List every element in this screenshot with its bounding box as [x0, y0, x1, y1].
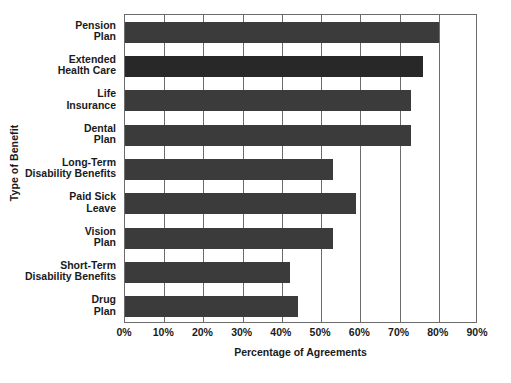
x-axis-tick-labels: 0%10%20%30%40%50%60%70%80%90% — [124, 326, 477, 342]
category-label-line2: Plan — [24, 31, 116, 43]
bar — [125, 90, 411, 111]
category-label-line2: Plan — [24, 134, 116, 146]
category-label: ExtendedHealth Care — [24, 54, 116, 77]
category-label-line2: Disability Benefits — [24, 271, 116, 283]
category-label: DrugPlan — [24, 294, 116, 317]
x-axis-tick-label: 10% — [153, 326, 174, 338]
category-label: LifeInsurance — [24, 88, 116, 111]
plot-area — [124, 14, 477, 323]
gridline — [439, 15, 440, 322]
bar — [125, 56, 423, 77]
x-axis-tick-label: 50% — [310, 326, 331, 338]
bar — [125, 159, 333, 180]
category-label-line1: Dental — [84, 122, 116, 134]
category-label: Paid SickLeave — [24, 191, 116, 214]
x-axis-tick-label: 90% — [466, 326, 487, 338]
category-label-line1: Long-Term — [62, 156, 116, 168]
bar — [125, 262, 290, 283]
category-label-line2: Disability Benefits — [24, 168, 116, 180]
category-label-line1: Life — [97, 87, 116, 99]
x-axis-tick-label: 80% — [427, 326, 448, 338]
category-axis-labels: PensionPlanExtendedHealth CareLifeInsura… — [28, 14, 120, 323]
category-label-line1: Short-Term — [60, 259, 116, 271]
x-axis-tick-label: 40% — [270, 326, 291, 338]
bar — [125, 296, 298, 317]
x-axis-tick-label: 70% — [388, 326, 409, 338]
category-label-line1: Extended — [69, 53, 116, 65]
category-label-line2: Plan — [24, 306, 116, 318]
bar — [125, 22, 439, 43]
category-label-line1: Pension — [75, 19, 116, 31]
category-label: Long-TermDisability Benefits — [24, 157, 116, 180]
x-axis-title: Percentage of Agreements — [124, 346, 477, 358]
x-axis-tick-label: 0% — [116, 326, 131, 338]
category-label-line1: Paid Sick — [69, 190, 116, 202]
bar-chart: Type of Benefit PensionPlanExtendedHealt… — [0, 0, 511, 383]
x-axis-tick-label: 30% — [231, 326, 252, 338]
x-axis-tick-label: 20% — [192, 326, 213, 338]
category-label: VisionPlan — [24, 226, 116, 249]
category-label: DentalPlan — [24, 123, 116, 146]
category-label-line1: Drug — [92, 293, 117, 305]
category-label-line2: Health Care — [24, 65, 116, 77]
category-label: Short-TermDisability Benefits — [24, 260, 116, 283]
category-label-line2: Plan — [24, 237, 116, 249]
y-axis-title-label: Type of Benefit — [8, 124, 20, 201]
bar — [125, 125, 411, 146]
bar — [125, 193, 356, 214]
category-label-line2: Leave — [24, 203, 116, 215]
category-label-line1: Vision — [85, 225, 116, 237]
category-label: PensionPlan — [24, 20, 116, 43]
bar — [125, 228, 333, 249]
category-label-line2: Insurance — [24, 100, 116, 112]
x-axis-tick-label: 60% — [349, 326, 370, 338]
